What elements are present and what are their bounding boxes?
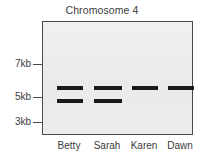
- dna-band: [168, 86, 194, 90]
- lane-label-karen: Karen: [129, 139, 159, 152]
- lane-label-dawn: Dawn: [166, 139, 194, 152]
- y-axis: 7kb5kb3kb: [0, 0, 42, 164]
- gel-surface: [43, 22, 192, 134]
- lane-label-betty: Betty: [54, 139, 84, 152]
- y-axis-tick-label: 7kb: [15, 59, 33, 69]
- y-axis-tick-label: 5kb: [15, 92, 33, 102]
- gel-plate: [42, 21, 193, 135]
- y-axis-tick-mark: [33, 64, 42, 65]
- dna-band: [94, 86, 122, 90]
- gel-electrophoresis-figure: Chromosome 4 7kb5kb3kb BettySarahKarenDa…: [0, 0, 204, 164]
- y-axis-tick-mark: [33, 122, 42, 123]
- dna-band: [57, 86, 83, 90]
- lane-label-row: BettySarahKarenDawn: [42, 139, 193, 155]
- lane-label-sarah: Sarah: [91, 139, 123, 152]
- y-axis-tick-label: 3kb: [15, 117, 33, 127]
- dna-band: [132, 86, 158, 90]
- y-axis-tick-mark: [33, 97, 42, 98]
- dna-band: [57, 99, 83, 103]
- dna-band: [94, 99, 122, 103]
